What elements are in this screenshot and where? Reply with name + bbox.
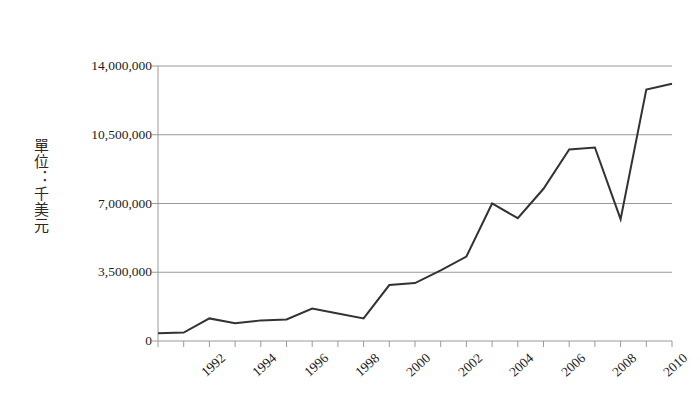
x-tick-label: 2006 [558, 351, 587, 379]
x-tick-label: 1996 [301, 351, 330, 379]
x-tick-label: 2002 [456, 351, 485, 379]
x-tick-label: 1998 [353, 351, 382, 379]
chart-page: 單位：千美元 14,000,00010,500,0007,000,0003,50… [0, 0, 700, 410]
x-tick-label: 1994 [250, 351, 279, 379]
x-tick-label: 2008 [610, 351, 639, 379]
x-axis-tick-labels: 1992199419961998200020022004200620082010 [0, 0, 700, 410]
x-tick-label: 2000 [404, 351, 433, 379]
x-tick-label: 1992 [199, 351, 228, 379]
x-tick-label: 2010 [661, 351, 690, 379]
x-tick-label: 2004 [507, 351, 536, 379]
